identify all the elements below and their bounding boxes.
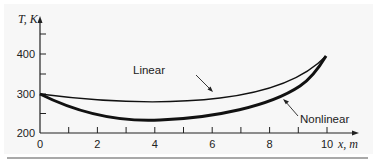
linear-label: Linear [133, 64, 165, 76]
temperature-profile-chart: 200 300 400 0 2 4 6 8 10 T, K x, m Linea… [0, 0, 377, 166]
chart-canvas: 200 300 400 0 2 4 6 8 10 T, K x, m Linea… [0, 0, 377, 166]
nonlinear-label: Nonlinear [300, 113, 349, 125]
x-tick-10: 10 [321, 138, 333, 150]
y-tick-300: 300 [17, 88, 35, 100]
x-tick-2: 2 [94, 138, 100, 150]
x-tick-6: 6 [209, 138, 215, 150]
y-tick-400: 400 [17, 48, 35, 60]
x-tick-0: 0 [37, 138, 43, 150]
plot-background [4, 4, 373, 154]
x-tick-8: 8 [267, 138, 273, 150]
y-axis-title: T, K [18, 12, 39, 26]
x-tick-4: 4 [152, 138, 158, 150]
y-tick-200: 200 [17, 127, 35, 139]
x-axis-title: x, m [337, 137, 358, 151]
